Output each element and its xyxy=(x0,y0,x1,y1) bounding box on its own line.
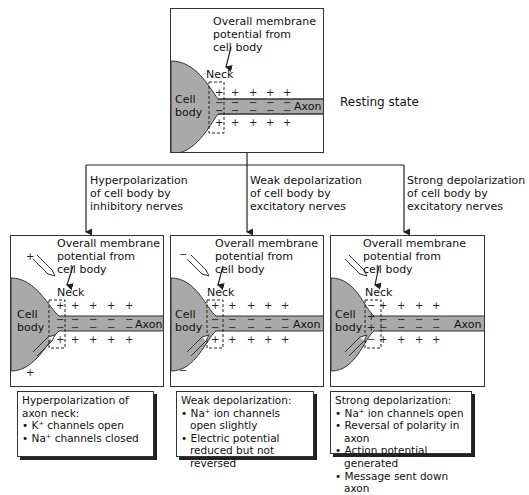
axon-label: Axon xyxy=(294,100,321,113)
cell-body-label: Cell body xyxy=(175,308,202,334)
svg-text:+: + xyxy=(107,334,115,345)
label-line: potential from xyxy=(215,250,318,263)
svg-text:−: − xyxy=(379,322,387,333)
cell-body-label: Cell body xyxy=(175,93,202,119)
note-item: • K⁺ channels open xyxy=(22,419,149,432)
condition-label-strong-depolarization: Strong depolarization of cell body by ex… xyxy=(407,174,525,213)
svg-text:+: + xyxy=(281,334,289,345)
svg-text:+: + xyxy=(415,334,423,345)
note-title: axon neck: xyxy=(22,407,149,420)
note-title: Strong depolarization: xyxy=(335,394,467,407)
axon-label: Axon xyxy=(135,318,162,331)
svg-text:−: − xyxy=(264,322,272,333)
note-item: • Message sent down axon xyxy=(335,470,467,495)
svg-text:−: − xyxy=(125,322,133,333)
svg-text:+: + xyxy=(107,300,115,311)
note-item: • Reversal of polarity in axon xyxy=(335,419,467,444)
svg-text:−: − xyxy=(281,322,289,333)
note-item: • Action potential generated xyxy=(335,444,467,469)
label-line: excitatory nerves xyxy=(407,200,525,213)
label-line: Overall membrane xyxy=(213,15,316,28)
membrane-potential-label: Overall membrane potential from cell bod… xyxy=(215,237,318,276)
condition-label-hyperpolarization: Hyperpolarization of cell body by inhibi… xyxy=(90,174,188,213)
label-line: Cell xyxy=(335,308,362,321)
svg-text:+: + xyxy=(266,117,274,128)
membrane-potential-label: Overall membrane potential from cell bod… xyxy=(57,237,160,276)
label-line: inhibitory nerves xyxy=(90,200,188,213)
note-hyperpolarization: Hyperpolarization of axon neck: • K⁺ cha… xyxy=(17,391,154,457)
label-line: potential from xyxy=(363,250,466,263)
note-item: • Na⁺ channels closed xyxy=(22,432,149,445)
svg-text:−: − xyxy=(283,105,291,116)
neck-label: Neck xyxy=(365,286,392,299)
svg-text:+: + xyxy=(281,300,289,311)
weak-depolarization-panel: −− +++++ −−−−− −−−−− +++++ Overall membr… xyxy=(170,235,324,387)
svg-text:−: − xyxy=(415,322,423,333)
resting-panel: +++++ −−−−− −−−−− +++++ Overall membrane… xyxy=(170,8,324,153)
svg-text:+: + xyxy=(397,300,405,311)
svg-text:−: − xyxy=(228,322,236,333)
svg-text:+: + xyxy=(26,367,34,378)
svg-text:+: + xyxy=(56,300,64,311)
svg-text:+: + xyxy=(89,334,97,345)
svg-text:−: − xyxy=(71,322,79,333)
membrane-potential-label: Overall membrane potential from cell bod… xyxy=(363,237,466,276)
label-line: body xyxy=(17,321,44,334)
note-item: • Na⁺ ion channels open slightly xyxy=(181,407,309,432)
svg-text:+: + xyxy=(379,334,387,345)
neck-label: Neck xyxy=(57,286,84,299)
svg-text:+: + xyxy=(26,251,34,262)
note-item: • Na⁺ ion channels open xyxy=(335,407,467,420)
svg-text:+: + xyxy=(397,334,405,345)
note-title: Hyperpolarization of xyxy=(22,394,149,407)
svg-text:+: + xyxy=(283,117,291,128)
hyperpolarization-panel: ++ +++++ −−−−− −−−−− +++++ Overall membr… xyxy=(10,235,164,387)
label-line: of cell body by xyxy=(90,187,188,200)
label-line: Cell xyxy=(175,308,202,321)
svg-text:−: − xyxy=(432,322,440,333)
svg-text:−: − xyxy=(107,322,115,333)
condition-label-weak-depolarization: Weak depolarization of cell body by exci… xyxy=(250,174,362,213)
svg-text:−: − xyxy=(397,322,405,333)
svg-text:+: + xyxy=(211,300,219,311)
svg-text:+: + xyxy=(71,300,79,311)
note-title: Weak depolarization: xyxy=(181,394,309,407)
svg-text:−: − xyxy=(56,322,64,333)
cell-body-label: Cell body xyxy=(335,308,362,334)
label-line: potential from xyxy=(57,250,160,263)
svg-text:+: + xyxy=(125,300,133,311)
note-item: • Electric potential reduced but not rev… xyxy=(181,432,309,470)
svg-text:+: + xyxy=(432,334,440,345)
label-line: Hyperpolarization xyxy=(90,174,188,187)
resting-state-label: Resting state xyxy=(340,96,419,109)
label-line: potential from xyxy=(213,28,316,41)
label-line: Weak depolarization xyxy=(250,174,362,187)
svg-text:−: − xyxy=(211,322,219,333)
axon-label: Axon xyxy=(454,318,481,331)
svg-text:−: − xyxy=(179,365,187,376)
axon-label: Axon xyxy=(293,318,320,331)
svg-text:−: − xyxy=(266,105,274,116)
note-weak-depolarization: Weak depolarization: • Na⁺ ion channels … xyxy=(176,391,314,457)
svg-text:+: + xyxy=(56,334,64,345)
label-line: body xyxy=(175,321,202,334)
svg-text:−: − xyxy=(249,105,257,116)
svg-text:+: + xyxy=(228,300,236,311)
svg-text:+: + xyxy=(379,300,387,311)
label-line: body xyxy=(335,321,362,334)
label-line: of cell body by xyxy=(250,187,362,200)
svg-text:+: + xyxy=(432,300,440,311)
label-line: Cell xyxy=(17,308,44,321)
svg-text:−: − xyxy=(231,105,239,116)
label-line: Overall membrane xyxy=(215,237,318,250)
label-line: Strong depolarization xyxy=(407,174,525,187)
neck-label: Neck xyxy=(207,286,234,299)
label-line: body xyxy=(175,106,202,119)
label-line: excitatory nerves xyxy=(250,200,362,213)
svg-text:+: + xyxy=(89,300,97,311)
svg-text:+: + xyxy=(247,300,255,311)
membrane-potential-label: Overall membrane potential from cell bod… xyxy=(213,15,316,54)
svg-text:−: − xyxy=(215,105,223,116)
svg-text:−: − xyxy=(179,249,187,260)
svg-text:+: + xyxy=(125,334,133,345)
